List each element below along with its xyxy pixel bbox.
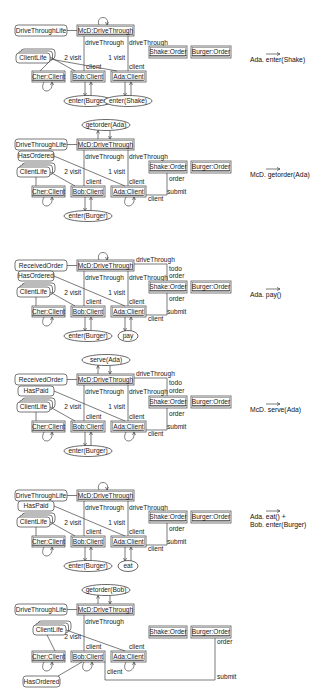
node-ada-client-label: Ada:Client: [113, 73, 144, 80]
action-bob-label: enter(Burger): [68, 447, 107, 455]
self-loop-edge: [125, 662, 135, 671]
node-mcd-drivethrough: McD:DriveThrough: [77, 490, 134, 501]
edge-label-todo: todo: [169, 379, 182, 386]
state-client-life: ClientLife: [33, 621, 71, 635]
action-bob-label: enter(Burger): [68, 562, 107, 570]
edge-label-client: client: [129, 178, 145, 185]
node-burger-order: Burger:Order: [191, 396, 231, 408]
node-bob-client: Bob:Client: [71, 421, 105, 432]
node-shake-order-label: Shake:Order: [149, 48, 187, 55]
node-cher-client: Cher:Client: [32, 71, 65, 82]
self-loop-edge: [43, 547, 53, 556]
action-bob: enter(Burger): [64, 446, 112, 457]
step-label: Ada. pay(): [250, 291, 281, 299]
node-mcd-drivethrough: McD:DriveThrough: [77, 139, 134, 150]
state-drive-through-label: DriveThroughLife: [16, 27, 67, 35]
state-link: [58, 662, 82, 676]
edge-label-visit: 2 visit: [64, 519, 81, 526]
action-drive-through: serve(Ada): [82, 355, 130, 366]
node-ada-client-label: Ada:Client: [113, 308, 144, 315]
state-drive-through: DriveThroughLife: [15, 490, 67, 501]
action-bob: enter(Burger): [64, 331, 112, 342]
node-bob-client-label: Bob:Client: [73, 308, 104, 315]
node-ada-client: Ada:Client: [111, 71, 146, 82]
node-bob-client: Bob:Client: [71, 71, 105, 82]
node-cher-client: Cher:Client: [32, 186, 65, 197]
state-client-life-label: ClientLife: [36, 626, 64, 633]
edge-label-submit: submit: [167, 308, 187, 315]
edge-label-order: order: [169, 295, 185, 302]
step-label: McD. getorder(Ada): [250, 171, 310, 179]
edge-label-client: client: [86, 413, 102, 420]
state-client-top-label: HasPaid: [24, 502, 49, 509]
edge-label-drivethrough: driveThrough: [85, 618, 124, 626]
edge-label-visit: 2 visit: [64, 168, 81, 175]
state-client-life-label: ClientLife: [20, 288, 48, 295]
edge-label-submit: submit: [167, 423, 187, 430]
edge-order-submit: [146, 173, 167, 195]
self-loop-edge: [43, 432, 53, 441]
node-burger-order-label: Burger:Order: [192, 513, 231, 521]
node-bob-client: Bob:Client: [71, 186, 105, 197]
state-drive-through-label: DriveThroughLife: [16, 606, 67, 614]
node-shake-order-label: Shake:Order: [149, 398, 187, 405]
edge-label-drivethrough: driveThrough: [85, 153, 124, 161]
node-cher-client-label: Cher:Client: [32, 308, 65, 315]
edge-label-visit: 1 visit: [108, 289, 125, 296]
state-drive-through: ReceivedOrder: [15, 260, 67, 271]
self-loop-edge: [125, 432, 135, 441]
action-ada: eat: [118, 561, 138, 572]
node-shake-order: Shake:Order: [149, 46, 187, 58]
step-label: Ada. eat() +: [250, 513, 286, 521]
state-client-top: HasPaid: [18, 386, 54, 396]
node-cher-client-label: Cher:Client: [32, 538, 65, 545]
edge-label-order: order: [169, 387, 185, 394]
transformation-sequence-diagram: DriveThroughLifeMcD:DriveThroughdriveThr…: [0, 0, 321, 699]
node-ada-client: Ada:Client: [111, 306, 146, 317]
node-ada-client-label: Ada:Client: [113, 188, 144, 195]
edge-label-visit: 1 visit: [108, 519, 125, 526]
node-mcd-drivethrough: McD:DriveThrough: [77, 260, 134, 271]
state-drive-through: DriveThroughLife: [15, 25, 67, 36]
action-bob-label: enter(Burger): [68, 97, 107, 105]
node-shake-order: Shake:Order: [149, 511, 187, 523]
edge-label-visit: 1 visit: [108, 403, 125, 410]
state-drive-through-label: ReceivedOrder: [19, 262, 64, 269]
node-cher-client: Cher:Client: [32, 651, 65, 662]
state-client-top: HasOrdered: [18, 151, 54, 161]
node-cher-client: Cher:Client: [32, 536, 65, 547]
arrow-down-icon: [106, 487, 109, 490]
node-mcd-drivethrough: McD:DriveThrough: [77, 25, 134, 36]
panel-p1: DriveThroughLifeMcD:DriveThroughdriveThr…: [15, 18, 305, 107]
node-bob-client: Bob:Client: [71, 536, 105, 547]
action-drive-through-label: getorder(Bob): [86, 586, 127, 594]
node-bob-client-label: Bob:Client: [73, 653, 104, 660]
edge-label-client: client: [129, 413, 145, 420]
edge-label-drivethrough: driveThrough: [85, 39, 124, 47]
self-loop-edge: [43, 82, 53, 91]
node-mcd-drivethrough-label: McD:DriveThrough: [78, 141, 134, 149]
node-mcd-drivethrough-label: McD:DriveThrough: [78, 262, 134, 270]
node-ada-client: Ada:Client: [111, 651, 146, 662]
step-label: McD. serve(Ada): [250, 406, 301, 414]
node-mcd-drivethrough: McD:DriveThrough: [77, 374, 134, 385]
node-ada-client: Ada:Client: [111, 536, 146, 547]
edge-label-visit: 1 visit: [108, 168, 125, 175]
node-shake-order: Shake:Order: [149, 626, 187, 638]
state-drive-through: ReceivedOrder: [15, 374, 67, 385]
action-bob-label: enter(Burger): [68, 332, 107, 340]
edge-label-submit: submit: [217, 673, 237, 680]
edge-label-drivethrough: driveThrough: [129, 388, 168, 396]
node-mcd-drivethrough-label: McD:DriveThrough: [78, 606, 134, 614]
state-client-life: ClientLife: [17, 398, 55, 412]
state-has-ordered: HasOrdered: [23, 676, 60, 687]
self-loop-edge: [83, 662, 93, 671]
action-ada-label: enter(Shake): [109, 97, 147, 105]
node-shake-order-label: Shake:Order: [149, 513, 187, 520]
edge-label-client: client: [148, 430, 164, 437]
state-client-life: ClientLife: [17, 513, 55, 527]
action-drive-through-label: getorder(Ada): [86, 121, 127, 129]
state-client-life: ClientLife: [16, 49, 55, 63]
edge-order-submit: [146, 293, 167, 315]
step-label: Ada. enter(Shake): [250, 56, 305, 64]
